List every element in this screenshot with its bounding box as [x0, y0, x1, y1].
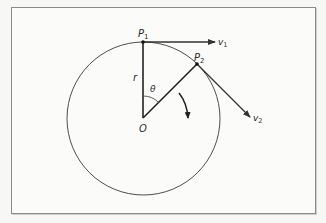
velocity-vector-v2: [197, 64, 250, 117]
angle-arc: [143, 96, 159, 102]
label-origin: O: [139, 123, 147, 134]
rotation-arrow-icon: [179, 93, 188, 118]
circular-motion-diagram: P1 P2 v1 v2 r θ O: [0, 0, 326, 223]
label-v2: v2: [253, 113, 262, 125]
label-angle-theta: θ: [150, 84, 156, 94]
label-p1: P1: [138, 28, 149, 41]
label-v1: v1: [218, 37, 227, 49]
label-radius: r: [133, 72, 138, 83]
